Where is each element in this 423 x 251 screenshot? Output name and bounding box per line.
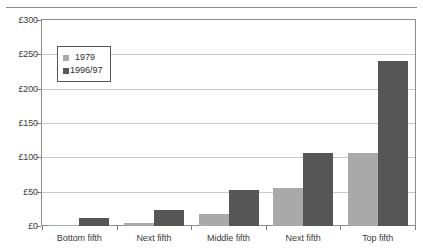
bar-1979-middle-fifth <box>199 214 229 226</box>
x-tick-4 <box>340 226 341 230</box>
bar-group <box>124 20 184 226</box>
y-axis-label-100: £100 <box>4 153 38 162</box>
legend-label-1979: 1979 <box>75 53 95 62</box>
bar-1979-bottom-fifth <box>49 225 79 226</box>
y-axis-label-200: £200 <box>4 85 38 94</box>
x-tick-1 <box>117 226 118 230</box>
page-ghost-caption <box>72 0 402 6</box>
x-axis-label-1: Next fifth <box>117 233 192 243</box>
legend-swatch-icon-1996-97 <box>63 68 69 74</box>
bar-1996-97-middle-fifth <box>229 190 259 226</box>
x-tick-0 <box>42 226 43 230</box>
y-axis-label-300: £300 <box>4 16 38 25</box>
y-tick-300 <box>36 20 41 21</box>
x-axis-label-0: Bottom fifth <box>42 233 117 243</box>
legend-item-1979: 1979 <box>63 51 103 64</box>
y-tick-250 <box>36 54 41 55</box>
bar-1979-next-fifth <box>273 188 303 226</box>
y-axis-labels: £0£50£100£150£200£250£300 <box>0 0 38 251</box>
y-tick-50 <box>36 192 41 193</box>
x-axis-label-2: Middle fifth <box>191 233 266 243</box>
y-axis-label-50: £50 <box>4 188 38 197</box>
y-axis-label-150: £150 <box>4 119 38 128</box>
bar-group <box>348 20 408 226</box>
x-axis-label-3: Next fifth <box>266 233 341 243</box>
y-tick-150 <box>36 123 41 124</box>
x-axis-label-4: Top fifth <box>340 233 415 243</box>
bar-1979-next-fifth <box>124 223 154 226</box>
bar-1996-97-bottom-fifth <box>79 218 109 226</box>
x-tick-end <box>415 226 416 230</box>
chart-legend: 1979 1996/97 <box>57 46 111 82</box>
y-axis-label-250: £250 <box>4 50 38 59</box>
legend-swatch-icon-1979 <box>63 55 69 61</box>
bar-chart: £0£50£100£150£200£250£300 1979 1996/97 B… <box>0 0 423 251</box>
bar-1996-97-top-fifth <box>378 61 408 226</box>
y-tick-200 <box>36 89 41 90</box>
legend-label-1996-97: 1996/97 <box>70 66 103 75</box>
x-tick-3 <box>266 226 267 230</box>
legend-item-1996-97: 1996/97 <box>63 64 103 77</box>
bar-1996-97-next-fifth <box>154 210 184 226</box>
x-tick-2 <box>191 226 192 230</box>
y-tick-0 <box>36 226 41 227</box>
bar-1979-top-fifth <box>348 153 378 226</box>
bar-group <box>199 20 259 226</box>
y-tick-100 <box>36 157 41 158</box>
page-top-rule <box>6 7 417 8</box>
bar-1996-97-next-fifth <box>303 153 333 226</box>
y-axis-label-0: £0 <box>4 222 38 231</box>
bar-group <box>273 20 333 226</box>
